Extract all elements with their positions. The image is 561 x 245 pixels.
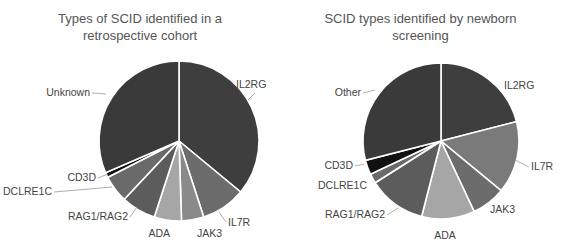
- slice-label: RAG1/RAG2: [325, 208, 385, 220]
- slice-label: CD3D: [67, 171, 96, 183]
- pie-svg: IL2RGIL7RJAK3ADARAG1/RAG2DCLRE1CCD3DOthe…: [280, 0, 561, 245]
- slice-label: Other: [335, 86, 362, 98]
- leader-line: [248, 93, 255, 100]
- leader-line: [219, 212, 226, 222]
- slice-label: IL2RG: [236, 78, 266, 90]
- leader-line: [130, 207, 137, 217]
- slice-label: ADA: [148, 227, 170, 239]
- slice-label: CD3D: [324, 159, 353, 171]
- slice-label: RAG1/RAG2: [68, 210, 128, 222]
- pie-svg: IL2RGIL7RJAK3ADARAG1/RAG2DCLRE1CCD3DUnkn…: [0, 0, 280, 245]
- leader-line: [387, 208, 398, 215]
- leader-line: [92, 93, 106, 94]
- slice-label: JAK3: [490, 203, 515, 215]
- leader-line: [515, 160, 529, 167]
- slice-label: ADA: [434, 229, 456, 241]
- leader-line: [355, 164, 364, 166]
- slice-label: DCLRE1C: [318, 179, 367, 191]
- slice-label: JAK3: [197, 227, 222, 239]
- slice-label: IL7R: [531, 160, 554, 172]
- retrospective-cohort-pie-chart: Types of SCID identified in a retrospect…: [0, 0, 280, 245]
- slice-label: Unknown: [46, 86, 90, 98]
- slice-label: DCLRE1C: [3, 185, 52, 197]
- slice-label: IL7R: [228, 216, 251, 228]
- leader-line: [363, 90, 375, 93]
- slice-label: IL2RG: [504, 79, 534, 91]
- leader-line: [54, 187, 112, 192]
- newborn-screening-pie-chart: SCID types identified by newborn screeni…: [280, 0, 561, 245]
